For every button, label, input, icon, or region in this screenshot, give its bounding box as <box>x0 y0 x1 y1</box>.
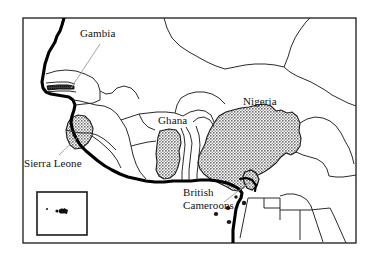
label-nigeria: Nigeria <box>243 96 277 108</box>
label-british-cameroons: British Cameroons <box>183 186 234 211</box>
label-gambia: Gambia <box>80 28 115 40</box>
label-ghana: Ghana <box>158 115 187 127</box>
inset-box <box>37 192 87 235</box>
label-sierra-leone: Sierra Leone <box>24 158 82 170</box>
map-figure: Gambia Sierra Leone Ghana Nigeria Britis… <box>0 0 378 261</box>
label-british-cameroons-line1: British <box>183 186 234 199</box>
shaded-region-gambia <box>47 85 74 90</box>
label-british-cameroons-line2: Cameroons <box>183 199 234 212</box>
map-drawing <box>0 0 378 261</box>
